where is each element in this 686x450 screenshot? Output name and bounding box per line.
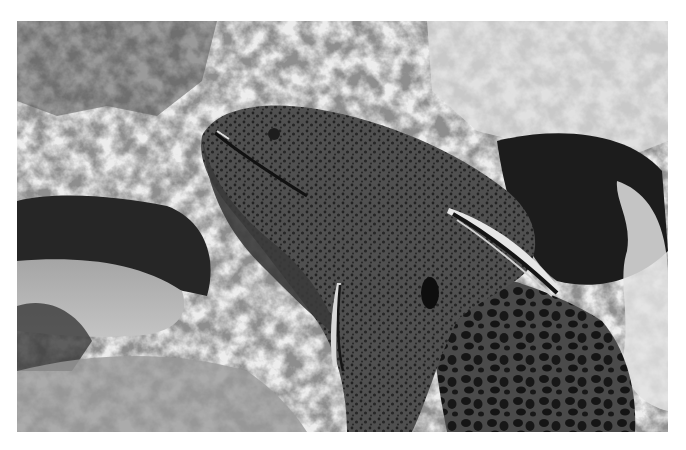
moray-eel-photo — [17, 21, 668, 432]
photo-canvas — [17, 21, 668, 432]
